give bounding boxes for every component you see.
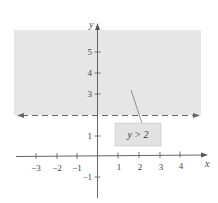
y-tick-label: −1 (82, 172, 92, 182)
x-axis-label: x (204, 158, 210, 169)
y-axis-label: y (88, 19, 94, 30)
y-tick-label: 3 (88, 89, 93, 99)
y-tick-label: 1 (88, 131, 93, 141)
x-tick-label: 3 (159, 162, 164, 172)
x-tick-label: −1 (72, 163, 82, 173)
y-tick-label: 5 (88, 47, 93, 57)
x-axis (16, 155, 204, 157)
x-axis-arrow-icon (201, 153, 208, 158)
x-tick-label: −2 (52, 163, 62, 173)
x-tick-label: 4 (179, 161, 184, 171)
inequality-graph: −3 −2 −1 1 2 3 4 5 4 3 1 −1 y x y > 2 (0, 0, 218, 203)
y-axis-arrow-icon (95, 23, 100, 30)
x-tick-label: −3 (31, 163, 41, 173)
inequality-label: y > 2 (126, 129, 148, 140)
y-tick-label: 4 (88, 68, 93, 78)
x-tick-label: 1 (117, 162, 122, 172)
x-tick-label: 2 (138, 162, 143, 172)
shaded-region (14, 30, 201, 115)
